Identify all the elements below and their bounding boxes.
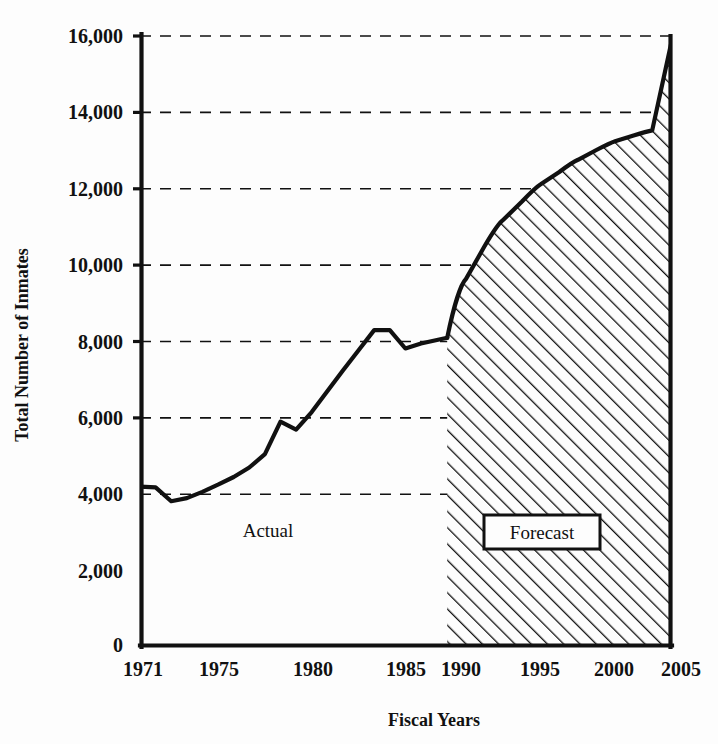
x-tick-label-2000: 2000: [594, 658, 634, 680]
y-axis-tick-labels: 16,000 14,000 12,000 10,000 8,000 6,000 …: [68, 25, 123, 656]
y-tick-label-8000: 8,000: [78, 331, 123, 353]
y-tick-label-10000: 10,000: [68, 254, 123, 276]
y-tick-label-16000: 16,000: [68, 25, 123, 47]
chart-container: 16,000 14,000 12,000 10,000 8,000 6,000 …: [0, 0, 718, 744]
y-tick-label-2000: 2,000: [78, 560, 123, 582]
x-tick-label-1985: 1985: [386, 658, 426, 680]
x-tick-label-1995: 1995: [520, 658, 560, 680]
x-tick-label-2005: 2005: [661, 658, 701, 680]
x-axis-tick-labels: 1971 1975 1980 1985 1990 1995 2000 2005: [123, 658, 701, 680]
x-tick-label-1980: 1980: [293, 658, 333, 680]
actual-region-annotation: Actual: [243, 520, 294, 541]
y-tick-label-4000: 4,000: [78, 483, 123, 505]
y-axis-title: Total Number of Inmates: [12, 248, 32, 442]
forecast-region-annotation: Forecast: [484, 515, 600, 549]
x-tick-label-1975: 1975: [199, 658, 239, 680]
actual-label: Actual: [243, 520, 294, 541]
x-tick-label-1971: 1971: [123, 658, 163, 680]
inmate-population-chart: 16,000 14,000 12,000 10,000 8,000 6,000 …: [0, 0, 718, 744]
y-tick-label-0: 0: [113, 634, 123, 656]
y-tick-label-12000: 12,000: [68, 178, 123, 200]
x-axis-title: Fiscal Years: [388, 710, 480, 730]
y-tick-label-6000: 6,000: [78, 407, 123, 429]
y-tick-label-14000: 14,000: [68, 101, 123, 123]
forecast-label: Forecast: [510, 522, 575, 543]
x-tick-label-1990: 1990: [441, 658, 481, 680]
